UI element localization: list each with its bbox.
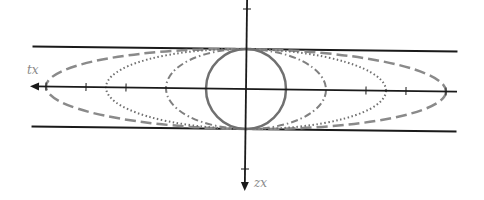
- ellipse-diagram: [0, 0, 484, 200]
- horizontal-axis-label: tx: [27, 63, 39, 77]
- vertical-axis: [245, 0, 247, 184]
- vertical-axis-label: zx: [254, 176, 267, 190]
- down-arrow-icon: [241, 182, 249, 191]
- left-arrow-icon: [30, 82, 39, 90]
